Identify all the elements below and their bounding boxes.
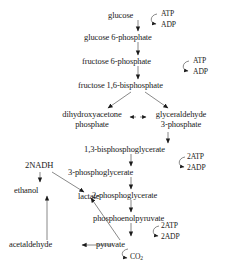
node-fructose-6-phosphate: fructose 6-phosphate <box>82 57 151 67</box>
node-2-nadh: 2NADH <box>25 161 53 171</box>
cofactor-adp-hexokinase: ADP <box>161 21 176 30</box>
co2-subscript: 2 <box>140 255 143 261</box>
node-glucose: glucose <box>108 11 133 21</box>
node-phosphoenolpyruvate: phosphoenolpyruvate <box>93 214 164 224</box>
node-ethanol: ethanol <box>14 186 38 196</box>
node-dihydroxyacetone-phosphate: dihydroxyacetone phosphate <box>56 110 128 129</box>
node-acetaldehyde: acetaldehyde <box>9 240 52 250</box>
cofactor-atp-pfk: ATP <box>193 57 206 66</box>
cofactor-2atp-pyruvate-kinase: 2ATP <box>161 222 178 231</box>
node-glucose-6-phosphate: glucose 6-phosphate <box>84 33 152 43</box>
cofactor-atp-hexokinase: ATP <box>161 10 174 19</box>
node-1-3-bisphosphoglycerate: 1,3-bisphosphoglycerate <box>84 145 165 155</box>
dhap-line-1: dihydroxyacetone <box>62 109 121 119</box>
co2-text: CO <box>130 252 140 261</box>
glycolysis-diagram: glucose glucose 6-phosphate fructose 6-p… <box>0 0 226 266</box>
g3p-line-2: 3-phosphate <box>161 119 201 129</box>
cofactor-2atp-phosphoglycerate-kinase: 2ATP <box>187 153 204 162</box>
cofactor-co2: CO2 <box>130 253 143 263</box>
node-3-phosphoglycerate: 3-phosphoglycerate <box>68 168 133 178</box>
cofactor-2adp-pyruvate-kinase: 2ADP <box>161 233 180 242</box>
g3p-line-1: glyceraldehyde <box>156 109 207 119</box>
node-lactate: lactate <box>78 192 99 202</box>
cofactor-2adp-phosphoglycerate-kinase: 2ADP <box>187 164 206 173</box>
node-fructose-1-6-bisphosphate: fructose 1,6-bisphosphate <box>78 81 163 91</box>
cofactor-adp-pfk: ADP <box>193 68 208 77</box>
node-2-phosphoglycerate: 2-phosphoglycerate <box>92 191 157 201</box>
dhap-line-2: phosphate <box>75 119 109 129</box>
node-pyruvate: pyruvate <box>96 240 125 250</box>
node-glyceraldehyde-3-phosphate: glyceraldehyde 3-phosphate <box>148 110 214 129</box>
